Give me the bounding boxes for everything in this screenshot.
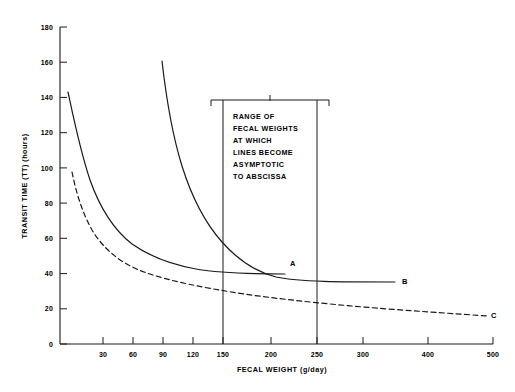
x-tick-label: 120 [187, 351, 199, 358]
y-tick-label: 60 [45, 235, 53, 242]
x-tick-label: 150 [217, 351, 229, 358]
x-tick-label: 200 [265, 351, 277, 358]
y-tick-label: 80 [45, 200, 53, 207]
x-tick-label: 30 [99, 351, 107, 358]
x-tick-label: 400 [422, 351, 434, 358]
series-label-a: A [290, 259, 296, 268]
x-tick-label: 60 [129, 351, 137, 358]
x-tick-label: 250 [311, 351, 323, 358]
annotation-line-4: LINES BECOME [233, 148, 293, 157]
annotation-line-6: TO ABSCISSA [233, 172, 287, 181]
y-tick-label: 140 [41, 94, 53, 101]
annotation-line-2: FECAL WEIGHTS [233, 124, 298, 133]
annotation-line-3: AT WHICH [233, 136, 272, 145]
asymptotic-range-annotation: RANGE OF FECAL WEIGHTS AT WHICH LINES BE… [233, 112, 298, 181]
y-tick-label: 0 [49, 341, 53, 348]
y-tick-label: 160 [41, 59, 53, 66]
x-tick-label: 90 [159, 351, 167, 358]
y-axis-ticks [60, 27, 67, 344]
chart-figure: 0 20 40 60 80 100 120 140 160 180 30 [0, 0, 515, 392]
series-label-c: C [491, 311, 497, 320]
y-axis-title: TRANSIT TIME (TT) (hours) [20, 133, 29, 238]
x-axis-ticks [103, 337, 493, 344]
range-bracket [211, 95, 329, 106]
data-series-group [68, 61, 487, 316]
series-line-c [72, 172, 487, 316]
y-tick-label: 40 [45, 270, 53, 277]
x-axis-tick-labels: 30 60 90 120 150 200 250 300 400 500 [99, 351, 499, 358]
x-tick-label: 500 [487, 351, 499, 358]
transit-time-vs-fecal-weight-chart: 0 20 40 60 80 100 120 140 160 180 30 [0, 0, 515, 392]
y-tick-label: 100 [41, 165, 53, 172]
y-axis-tick-labels: 0 20 40 60 80 100 120 140 160 180 [41, 24, 53, 348]
y-tick-label: 120 [41, 129, 53, 136]
annotation-line-5: ASYMPTOTIC [233, 160, 285, 169]
y-tick-label: 20 [45, 305, 53, 312]
y-tick-label: 180 [41, 24, 53, 31]
x-axis-title: FECAL WEIGHT (g/day) [237, 365, 327, 374]
series-label-b: B [402, 277, 408, 286]
axis-lines [60, 27, 493, 344]
annotation-line-1: RANGE OF [233, 112, 275, 121]
x-tick-label: 300 [357, 351, 369, 358]
series-labels-group: A B C [290, 259, 497, 320]
